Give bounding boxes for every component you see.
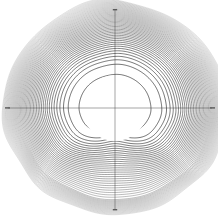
plot-canvas (0, 0, 218, 219)
x-axis-right-cap-icon (210, 107, 215, 108)
y-axis-bottom-cap-icon (113, 209, 117, 210)
x-axis-left-cap-icon (5, 107, 10, 108)
y-axis-top-cap-icon (113, 9, 117, 10)
contour-plot-svg (0, 0, 218, 219)
